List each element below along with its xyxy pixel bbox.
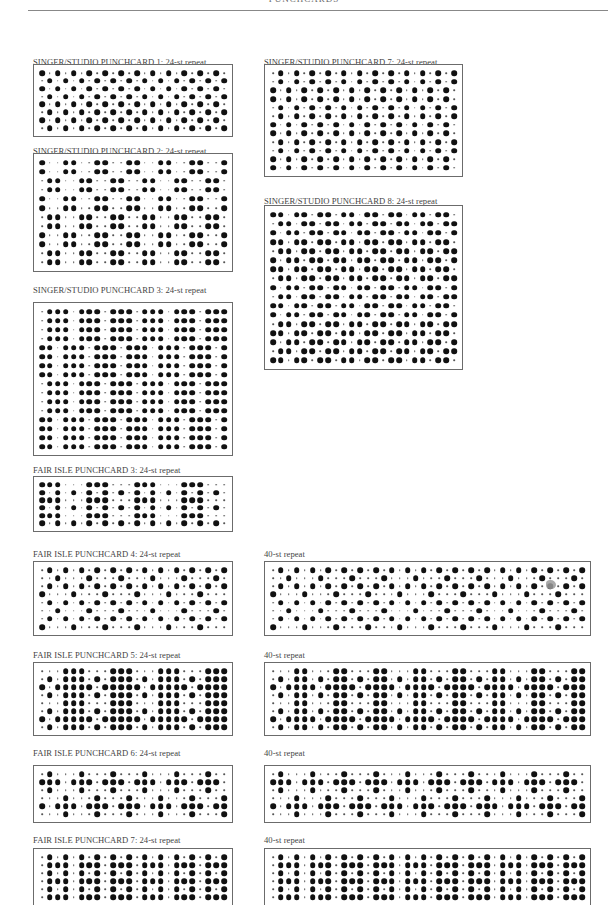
punched-hole-icon <box>468 886 474 892</box>
blank-position-icon <box>97 262 99 264</box>
punched-hole-icon <box>380 321 386 327</box>
punched-hole-icon <box>47 260 53 266</box>
punched-hole-icon <box>516 811 522 817</box>
blank-position-icon <box>144 610 146 612</box>
punched-hole-icon <box>532 787 538 793</box>
blank-position-icon <box>462 880 464 882</box>
punched-hole-icon <box>39 592 45 598</box>
punched-hole-icon <box>532 668 538 674</box>
blank-position-icon <box>199 586 201 588</box>
punched-hole-icon <box>142 336 148 342</box>
punched-hole-icon <box>174 724 180 730</box>
blank-position-icon <box>439 686 441 688</box>
punched-hole-icon <box>357 811 363 817</box>
blank-position-icon <box>168 329 170 331</box>
punched-hole-icon <box>349 862 355 868</box>
blank-position-icon <box>144 626 146 628</box>
blank-position-icon <box>97 702 99 704</box>
punched-hole-icon <box>158 345 164 351</box>
blank-position-icon <box>199 311 201 313</box>
punched-hole-icon <box>197 435 203 441</box>
punched-hole-icon <box>134 117 140 123</box>
blank-position-icon <box>445 232 447 234</box>
punched-hole-icon <box>579 692 585 698</box>
punched-hole-icon <box>294 600 300 606</box>
blank-position-icon <box>41 311 43 313</box>
punched-hole-icon <box>421 600 427 606</box>
blank-position-icon <box>49 162 51 164</box>
blank-position-icon <box>526 602 528 604</box>
punched-hole-icon <box>492 684 498 690</box>
punched-hole-icon <box>492 700 498 706</box>
punched-hole-icon <box>508 608 514 614</box>
blank-position-icon <box>128 515 130 517</box>
blank-position-icon <box>168 586 170 588</box>
blank-position-icon <box>120 374 122 376</box>
blank-position-icon <box>136 856 138 858</box>
punched-hole-icon <box>326 894 332 900</box>
punched-hole-icon <box>468 870 474 876</box>
blank-position-icon <box>192 180 194 182</box>
punched-hole-icon <box>357 795 363 801</box>
punched-hole-icon <box>213 117 219 123</box>
blank-position-icon <box>447 569 449 571</box>
punched-hole-icon <box>317 165 323 171</box>
punched-hole-icon <box>102 354 108 360</box>
blank-position-icon <box>414 141 416 143</box>
blank-position-icon <box>73 96 75 98</box>
punched-hole-icon <box>325 358 331 364</box>
punched-hole-icon <box>278 787 284 793</box>
blank-position-icon <box>351 72 353 74</box>
punched-hole-icon <box>110 676 116 682</box>
blank-position-icon <box>391 702 393 704</box>
punched-hole-icon <box>436 70 442 76</box>
punched-hole-icon <box>294 700 300 706</box>
blank-position-icon <box>49 522 51 524</box>
punched-hole-icon <box>540 862 546 868</box>
blank-position-icon <box>557 610 559 612</box>
blank-position-icon <box>319 223 321 225</box>
punched-hole-icon <box>158 125 164 131</box>
punched-hole-icon <box>182 187 188 193</box>
punched-hole-icon <box>63 811 69 817</box>
punched-hole-icon <box>405 584 411 590</box>
punched-hole-icon <box>373 724 379 730</box>
punched-hole-icon <box>102 497 108 503</box>
punched-hole-icon <box>71 345 77 351</box>
blank-position-icon <box>199 80 201 82</box>
blank-position-icon <box>375 98 377 100</box>
punched-hole-icon <box>213 399 219 405</box>
punched-hole-icon <box>500 886 506 892</box>
punched-hole-icon <box>341 312 347 318</box>
punched-hole-icon <box>126 345 132 351</box>
punched-hole-icon <box>365 330 371 336</box>
punched-hole-icon <box>278 771 284 777</box>
blank-position-icon <box>73 515 75 517</box>
blank-position-icon <box>97 594 99 596</box>
punched-hole-icon <box>302 692 308 698</box>
punched-hole-icon <box>286 285 292 291</box>
blank-position-icon <box>423 594 425 596</box>
punched-hole-icon <box>373 684 379 690</box>
blank-position-icon <box>526 797 528 799</box>
punched-hole-icon <box>476 708 482 714</box>
blank-position-icon <box>280 158 282 160</box>
blank-position-icon <box>160 522 162 524</box>
blank-position-icon <box>312 133 314 135</box>
blank-position-icon <box>215 602 217 604</box>
blank-position-icon <box>199 602 201 604</box>
punched-hole-icon <box>413 692 419 698</box>
blank-position-icon <box>136 329 138 331</box>
blank-position-icon <box>280 259 282 261</box>
blank-position-icon <box>447 702 449 704</box>
punched-hole-icon <box>47 600 53 606</box>
blank-position-icon <box>136 586 138 588</box>
blank-position-icon <box>510 678 512 680</box>
blank-position-icon <box>168 813 170 815</box>
blank-position-icon <box>184 569 186 571</box>
punched-hole-icon <box>205 886 211 892</box>
blank-position-icon <box>199 96 201 98</box>
blank-position-icon <box>192 577 194 579</box>
punched-hole-icon <box>341 339 347 345</box>
blank-position-icon <box>542 789 544 791</box>
